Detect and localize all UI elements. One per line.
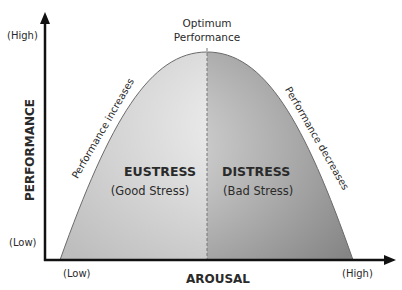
optimum-label-line1: Optimum — [182, 17, 231, 29]
eustress-title: EUSTRESS — [124, 164, 196, 179]
optimum-label-line2: Performance — [174, 31, 241, 43]
distress-subtitle: (Bad Stress) — [223, 184, 293, 198]
yerkes-dodson-diagram: (High) (Low) PERFORMANCE (Low) (High) AR… — [0, 0, 402, 290]
curve — [60, 48, 353, 260]
y-low-label: (Low) — [9, 237, 37, 248]
y-high-label: (High) — [7, 30, 38, 41]
x-high-label: (High) — [342, 268, 373, 279]
x-axis-arrow-icon — [384, 255, 396, 265]
eustress-subtitle: (Good Stress) — [111, 184, 189, 198]
x-axis-title: AROUSAL — [186, 272, 250, 286]
y-axis-arrow-icon — [40, 12, 50, 24]
x-low-label: (Low) — [63, 268, 91, 279]
y-axis-title: PERFORMANCE — [23, 99, 37, 201]
distress-title: DISTRESS — [222, 164, 290, 179]
